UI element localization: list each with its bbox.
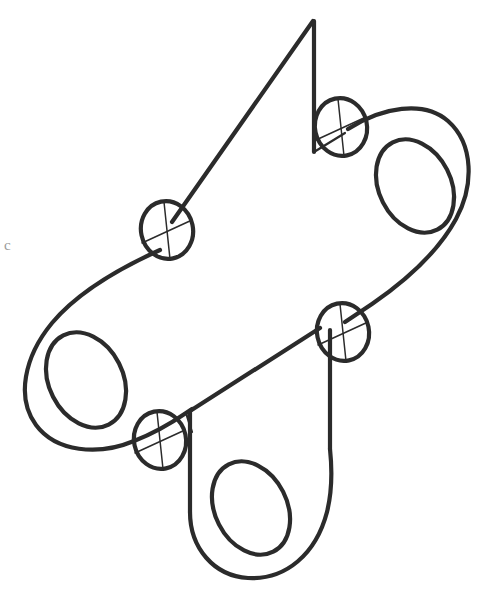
left-lobe-hole	[30, 319, 141, 442]
fillet-circles-group	[129, 93, 375, 474]
through-holes-group	[30, 126, 469, 568]
fillet-upper-right	[310, 93, 373, 161]
drawing-canvas: c	[0, 0, 488, 594]
fillet-upper-left	[136, 196, 199, 264]
spike-left-edge	[172, 21, 313, 222]
margin-glyph-c: c	[4, 238, 11, 253]
mid-notch-diagonal-edge	[190, 328, 320, 411]
technical-drawing	[0, 0, 488, 594]
bottom-lobe-hole	[197, 448, 306, 568]
part-outline-group	[25, 21, 469, 578]
